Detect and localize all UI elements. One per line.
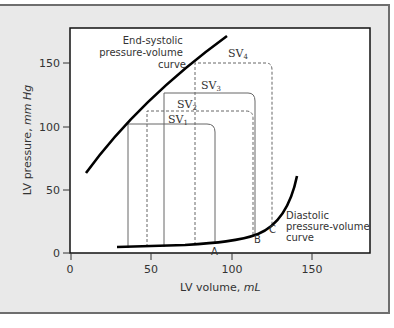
point-c-label: C (269, 224, 276, 235)
y-axis (63, 63, 70, 253)
x-tick-50: 50 (144, 263, 158, 276)
x-tick-150: 150 (302, 263, 323, 276)
y-tick-50: 50 (46, 184, 60, 197)
y-tick-100: 100 (39, 121, 60, 134)
x-axis-title: LV volume, mL (180, 281, 261, 294)
y-axis-title: LV pressure, mm Hg (21, 85, 34, 196)
y-tick-0: 0 (53, 247, 60, 260)
pv-loop-chart: 0 50 100 150 0 50 100 150 LV volume, mL … (0, 0, 394, 328)
x-axis (71, 253, 312, 260)
point-b-label: B (254, 234, 261, 245)
point-a-label: A (211, 246, 218, 257)
y-tick-150: 150 (39, 57, 60, 70)
x-tick-0: 0 (67, 263, 74, 276)
x-tick-100: 100 (222, 263, 243, 276)
